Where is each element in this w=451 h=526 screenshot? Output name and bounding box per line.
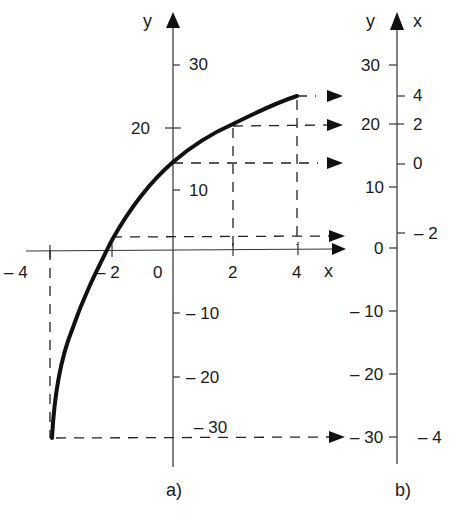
y-axis-label: y <box>143 12 152 30</box>
y-tick-label: 20 <box>131 120 150 137</box>
b-x-axis-label: x <box>413 12 422 30</box>
panel-a-caption: a) <box>166 481 182 499</box>
panel-b-caption: b) <box>395 481 411 499</box>
b-y-tick-label: 10 <box>365 179 384 196</box>
x-tick-label: – 2 <box>96 264 120 281</box>
b-y-axis-label: y <box>366 12 375 30</box>
arrow-icon <box>327 157 343 169</box>
x-axis-label: x <box>324 262 333 280</box>
diagram-canvas <box>0 0 451 526</box>
y-tick-label: – 30 <box>194 419 227 436</box>
b-y-tick-label: – 30 <box>350 429 383 446</box>
b-x-tick-label: – 2 <box>414 225 438 242</box>
b-x-tick-label: 4 <box>413 87 422 104</box>
arrow-icon <box>329 431 345 443</box>
x-tick-label: 4 <box>292 264 301 281</box>
x-axis <box>26 249 335 251</box>
b-y-tick-label: 0 <box>374 240 383 257</box>
b-y-tick-label: – 10 <box>350 303 383 320</box>
arrow-icon <box>327 119 343 131</box>
x-tick-label: – 4 <box>4 264 28 281</box>
y-tick-label: 30 <box>189 56 208 73</box>
x-tick-label: 0 <box>153 264 162 281</box>
b-x-tick-label: – 4 <box>418 429 442 446</box>
x-axis-arrow-icon <box>332 243 346 255</box>
y-tick-label: – 10 <box>186 305 219 322</box>
b-y-tick-label: – 20 <box>350 366 383 383</box>
y-tick-label: 10 <box>189 182 208 199</box>
arrow-icon <box>329 230 345 242</box>
x-tick-label: 2 <box>228 264 237 281</box>
y-axis-arrow-icon <box>166 12 180 28</box>
b-x-tick-label: 0 <box>413 155 422 172</box>
b-x-tick-label: 2 <box>413 116 422 133</box>
b-y-tick-label: 30 <box>361 57 380 74</box>
y-tick-label: – 20 <box>186 369 219 386</box>
panel-a-axes <box>26 12 346 467</box>
b-y-tick-label: 20 <box>361 116 380 133</box>
panel-b-axes <box>389 12 405 464</box>
b-axis-arrow-icon <box>390 12 404 30</box>
function-curve <box>52 96 297 438</box>
arrow-icon <box>327 90 343 102</box>
